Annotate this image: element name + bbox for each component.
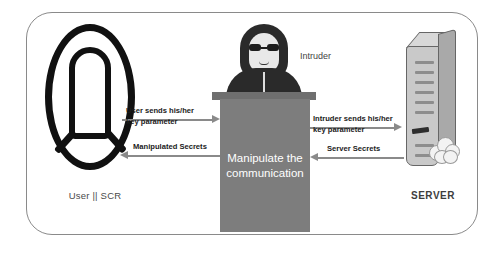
user-label: User || SCR	[40, 190, 150, 201]
manipulate-communication-text: Manipulate the communication	[222, 151, 307, 181]
sunglasses-right-lens	[267, 44, 279, 51]
intruder-label: Intruder	[300, 51, 331, 61]
user-face-inner-shape	[69, 47, 111, 139]
server-vent	[415, 101, 434, 104]
sunglasses-left-lens	[249, 44, 261, 51]
manipulate-communication-box: Manipulate the communication	[220, 99, 310, 232]
arrow-intruder-to-user-head	[120, 151, 128, 159]
mitm-line-2: communication	[226, 166, 303, 181]
arrow-user-to-intruder-head	[212, 115, 220, 123]
label-intruder-to-server-line2: key parameter	[313, 125, 393, 136]
arrow-intruder-to-server-head	[394, 123, 402, 131]
label-intruder-to-user-line1: Manipulated Secrets	[133, 142, 207, 153]
user-head-outline-icon	[45, 24, 135, 170]
label-user-to-intruder: User sends his/her key parameter	[126, 106, 194, 127]
hooded-intruder-icon	[222, 24, 306, 102]
face-shape	[249, 33, 279, 73]
label-intruder-to-server: Intruder sends his/her key parameter	[313, 114, 393, 135]
sunglasses-icon	[249, 44, 279, 51]
arrow-server-to-intruder-head	[310, 153, 318, 161]
label-intruder-to-user: Manipulated Secrets	[133, 142, 207, 153]
server-vent	[415, 61, 434, 64]
server-vent	[415, 91, 434, 94]
server-vent	[415, 81, 434, 84]
arrow-intruder-to-user-line	[128, 155, 220, 157]
label-intruder-to-server-line1: Intruder sends his/her	[313, 114, 393, 125]
arrow-server-to-intruder-line	[318, 157, 404, 159]
cloud-puff	[443, 150, 458, 164]
server-vent	[415, 71, 434, 74]
diagram-canvas: User || SCR Intruder Manipulate the comm…	[0, 0, 500, 267]
server-label: SERVER	[390, 190, 476, 201]
label-user-to-intruder-line1: User sends his/her	[126, 106, 194, 117]
label-server-to-intruder-line1: Server Secrets	[327, 144, 380, 155]
mitm-line-1: Manipulate the	[226, 151, 303, 166]
label-server-to-intruder: Server Secrets	[327, 144, 380, 155]
server-vent	[415, 111, 434, 114]
server-tower-icon	[403, 30, 463, 170]
label-user-to-intruder-line2: key parameter	[126, 117, 194, 128]
cloud-icon	[429, 137, 459, 163]
